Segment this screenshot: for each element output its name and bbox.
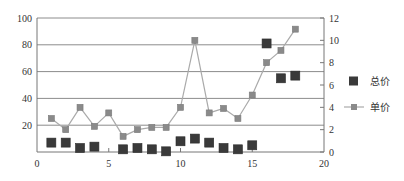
data-point xyxy=(219,143,228,152)
chart: 2040608010002468101205101520 总价单价 xyxy=(0,0,404,181)
data-point xyxy=(90,142,99,151)
data-point xyxy=(278,47,284,53)
data-point xyxy=(248,141,257,150)
legend-item: 总价 xyxy=(349,75,390,87)
series-group xyxy=(47,26,300,156)
data-point xyxy=(120,133,126,139)
data-point xyxy=(292,26,298,32)
y2-tick-label: 12 xyxy=(329,13,339,24)
legend: 总价单价 xyxy=(344,75,390,113)
axes xyxy=(37,18,324,152)
data-point xyxy=(76,143,85,152)
data-point xyxy=(235,116,241,122)
data-point xyxy=(134,127,140,133)
data-point xyxy=(192,37,198,43)
data-point xyxy=(162,147,171,156)
y2-tick-label: 2 xyxy=(329,124,334,135)
legend-label: 单价 xyxy=(370,102,390,113)
data-point xyxy=(163,124,169,130)
series-1 xyxy=(47,39,300,156)
data-point xyxy=(106,110,112,116)
data-point xyxy=(221,105,227,111)
data-point xyxy=(190,134,199,143)
data-point xyxy=(47,138,56,147)
data-point xyxy=(133,143,142,152)
y-tick-label: 80 xyxy=(22,39,32,50)
x-tick-label: 0 xyxy=(35,158,40,169)
data-point xyxy=(176,137,185,146)
data-point xyxy=(77,104,83,110)
legend-item: 单价 xyxy=(344,102,390,113)
data-point xyxy=(91,123,97,129)
y2-tick-label: 0 xyxy=(329,147,334,158)
data-point xyxy=(276,74,285,83)
data-point xyxy=(205,138,214,147)
y-tick-label: 60 xyxy=(22,66,32,77)
legend-label: 总价 xyxy=(370,75,390,87)
data-point xyxy=(262,39,271,48)
data-point xyxy=(233,145,242,154)
y2-tick-label: 10 xyxy=(329,35,339,46)
data-point xyxy=(249,92,255,98)
x-tick-label: 20 xyxy=(319,158,329,169)
y-tick-label: 20 xyxy=(22,120,32,131)
data-point xyxy=(48,116,54,122)
data-point xyxy=(206,110,212,116)
data-point xyxy=(178,104,184,110)
legend-marker xyxy=(349,77,358,86)
y2-tick-label: 4 xyxy=(329,102,334,113)
data-point xyxy=(147,145,156,154)
data-point xyxy=(63,127,69,133)
y2-tick-label: 6 xyxy=(329,80,334,91)
x-tick-label: 5 xyxy=(106,158,111,169)
y-tick-label: 100 xyxy=(17,13,32,24)
y-tick-label: 40 xyxy=(22,93,32,104)
data-point xyxy=(119,145,128,154)
x-tick-label: 10 xyxy=(176,158,186,169)
legend-marker xyxy=(351,104,357,110)
data-point xyxy=(291,71,300,80)
data-point xyxy=(264,60,270,66)
data-point xyxy=(61,138,70,147)
series-2 xyxy=(48,26,298,139)
y2-tick-label: 8 xyxy=(329,57,334,68)
data-point xyxy=(149,124,155,130)
x-tick-label: 15 xyxy=(247,158,257,169)
